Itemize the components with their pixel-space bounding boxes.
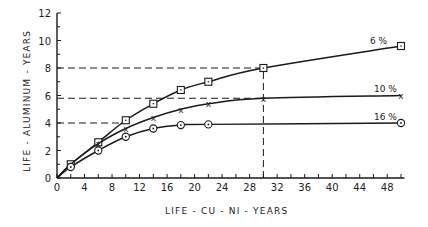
y-tick-label: 2 xyxy=(45,146,51,157)
x-tick-label: 8 xyxy=(109,182,115,193)
x-marker: x xyxy=(398,91,404,101)
x-marker: x xyxy=(151,113,157,123)
x-tick-label: 36 xyxy=(298,182,311,193)
series-16-percent xyxy=(57,119,405,178)
chart: 02468101204812162024283236404448 xxxxxxx… xyxy=(0,0,428,227)
x-tick-label: 0 xyxy=(54,182,60,193)
x-tick-label: 12 xyxy=(133,182,146,193)
x-tick-label: 4 xyxy=(81,182,87,193)
x-tick-label: 24 xyxy=(216,182,229,193)
x-marker: x xyxy=(261,94,267,104)
x-tick-label: 32 xyxy=(271,182,284,193)
x-marker: x xyxy=(123,124,129,134)
y-tick-label: 8 xyxy=(45,63,51,74)
series-line xyxy=(57,46,401,178)
x-tick-label: 40 xyxy=(326,182,339,193)
x-tick-label: 16 xyxy=(161,182,174,193)
series-label-10: 10 % xyxy=(374,84,397,94)
y-axis-title: LIFE - ALUMINUM - YEARS xyxy=(22,30,32,172)
series-10-percent: xxxxxxxx xyxy=(57,91,404,178)
y-tick-label: 10 xyxy=(38,36,51,47)
series-6-percent xyxy=(57,43,405,179)
x-axis-title: LIFE - CU - NI - YEARS xyxy=(165,206,288,216)
series-label-16: 16 % xyxy=(374,112,397,122)
y-tick-label: 0 xyxy=(45,173,51,184)
y-tick-label: 6 xyxy=(45,91,51,102)
x-tick-label: 44 xyxy=(353,182,366,193)
y-tick-label: 4 xyxy=(45,118,51,129)
x-tick-label: 20 xyxy=(188,182,201,193)
x-marker: x xyxy=(178,105,184,115)
reference-lines xyxy=(57,68,263,178)
x-tick-label: 28 xyxy=(243,182,256,193)
axes: 02468101204812162024283236404448 xyxy=(38,8,404,193)
x-tick-label: 48 xyxy=(381,182,394,193)
series-line xyxy=(57,123,401,178)
series-label-6: 6 % xyxy=(370,36,388,46)
series-line xyxy=(57,96,401,179)
series: xxxxxxxx xyxy=(57,43,405,179)
x-marker: x xyxy=(206,99,212,109)
y-tick-label: 12 xyxy=(38,8,51,19)
